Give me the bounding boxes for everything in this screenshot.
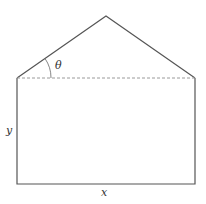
width-label-x: x <box>101 187 107 198</box>
theta-label: θ <box>55 60 62 71</box>
theta-angle-arc <box>45 59 51 79</box>
height-label-y: y <box>6 125 12 136</box>
rectangle-outline <box>17 78 195 184</box>
pentagon-figure <box>0 0 206 204</box>
triangle-roof <box>17 16 195 78</box>
diagram-canvas: θ y x <box>0 0 206 204</box>
